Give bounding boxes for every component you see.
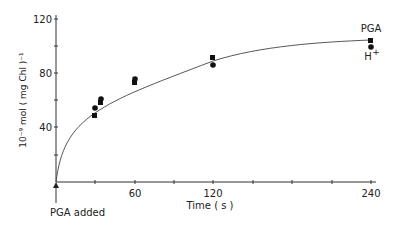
pga-added-label: PGA added xyxy=(50,207,105,218)
series-h-plus xyxy=(92,44,374,111)
fit-curve xyxy=(56,40,371,182)
series-label-h-sup: + xyxy=(372,47,380,57)
x-axis-title: Time ( s ) xyxy=(185,200,233,211)
series-label-h: H xyxy=(364,51,372,62)
arrow-head-icon xyxy=(53,182,59,188)
x-tick-label-240: 240 xyxy=(361,188,380,199)
x-tick-label-60: 60 xyxy=(129,188,142,199)
series-label-pga: PGA xyxy=(361,23,382,34)
chart: 120 80 40 60 120 240 10⁻⁹ mol ( mg Chl )… xyxy=(0,0,401,229)
x-tick-label-120: 120 xyxy=(203,188,222,199)
y-tick-label-80: 80 xyxy=(39,68,52,79)
y-axis-title: 10⁻⁹ mol ( mg Chl )⁻¹ xyxy=(18,52,28,148)
y-tick-label-40: 40 xyxy=(39,122,52,133)
y-tick-label-120: 120 xyxy=(33,14,52,25)
